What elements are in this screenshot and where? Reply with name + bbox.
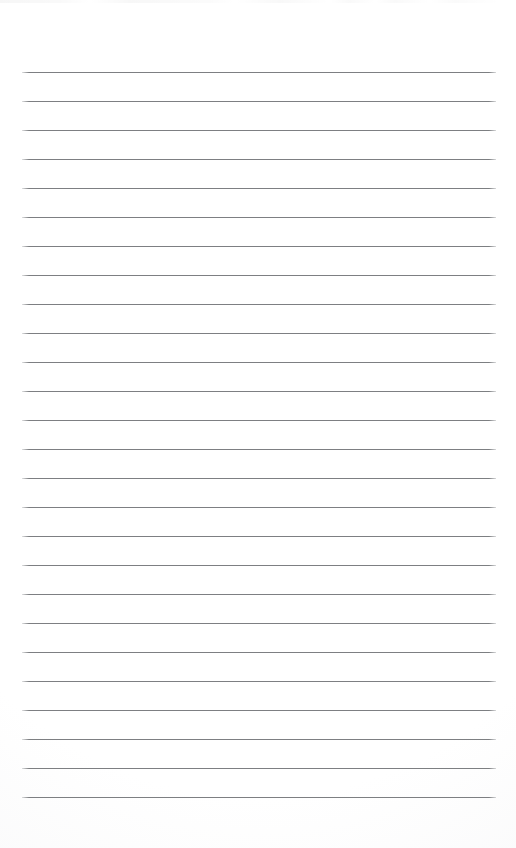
ruled-line (22, 130, 496, 131)
ruled-line (22, 536, 496, 537)
ruled-line (22, 507, 496, 508)
ruled-line (22, 304, 496, 305)
ruled-line (22, 275, 496, 276)
ruled-line (22, 420, 496, 421)
ruled-line (22, 159, 496, 160)
ruled-line (22, 101, 496, 102)
ruled-line (22, 188, 496, 189)
ruled-line (22, 362, 496, 363)
ruled-line (22, 623, 496, 624)
ruled-line (22, 652, 496, 653)
ruled-lines-group (0, 0, 516, 848)
ruled-line (22, 565, 496, 566)
ruled-line (22, 478, 496, 479)
ruled-line (22, 739, 496, 740)
ruled-line (22, 333, 496, 334)
lined-paper-page (0, 0, 516, 848)
ruled-line (22, 391, 496, 392)
ruled-line (22, 594, 496, 595)
ruled-line (22, 449, 496, 450)
ruled-line (22, 797, 496, 798)
ruled-line (22, 710, 496, 711)
ruled-line (22, 72, 496, 73)
ruled-line (22, 246, 496, 247)
ruled-line (22, 217, 496, 218)
ruled-line (22, 768, 496, 769)
ruled-line (22, 681, 496, 682)
